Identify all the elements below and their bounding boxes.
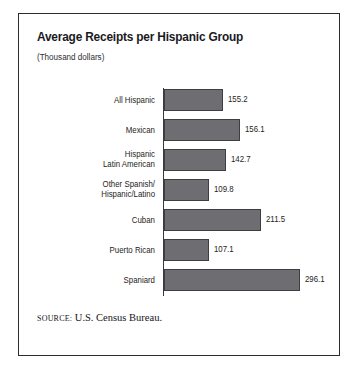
bar [164,89,223,111]
source-label: Source: [37,314,72,323]
bar-chart-plot-area: All Hispanic155.2Mexican156.1HispanicLat… [19,86,338,296]
source-text: U.S. Census Bureau. [75,312,162,323]
bar-value-label: 211.5 [266,215,285,224]
bar-value-label: 155.2 [228,95,248,104]
bar-row: Cuban211.5 [19,206,338,236]
bar-category-label: Cuban [30,216,155,226]
bar-row: HispanicLatin American142.7 [19,146,338,176]
bar [164,239,209,261]
bar-value-label: 109.8 [214,185,234,194]
bar-value-label: 156.1 [245,125,265,134]
bar-category-label: HispanicLatin American [30,150,155,170]
bar [164,179,209,201]
bar [164,209,261,231]
bar-row: Mexican156.1 [19,116,338,146]
bar-value-label: 296.1 [305,275,325,284]
chart-title: Average Receipts per Hispanic Group [37,30,243,44]
bar-value-label: 142.7 [231,155,251,164]
bar-category-label: Other Spanish/Hispanic/Latino [30,180,155,200]
bar-category-label: Mexican [30,126,155,136]
bar-category-label: Spaniard [30,276,155,286]
bar-row: Other Spanish/Hispanic/Latino109.8 [19,176,338,206]
bar-value-label: 107.1 [214,245,234,254]
bar-row: Spaniard296.1 [19,266,338,296]
chart-figure: Average Receipts per Hispanic Group (Tho… [18,13,340,356]
source-note: Source: U.S. Census Bureau. [37,312,162,323]
bar-category-label: Puerto Rican [30,246,155,256]
bar [164,149,226,171]
chart-subtitle: (Thousand dollars) [37,52,104,62]
bar [164,269,300,291]
bar-category-label: All Hispanic [30,96,155,106]
bar-row: Puerto Rican107.1 [19,236,338,266]
bar [164,119,240,141]
bar-row: All Hispanic155.2 [19,86,338,116]
